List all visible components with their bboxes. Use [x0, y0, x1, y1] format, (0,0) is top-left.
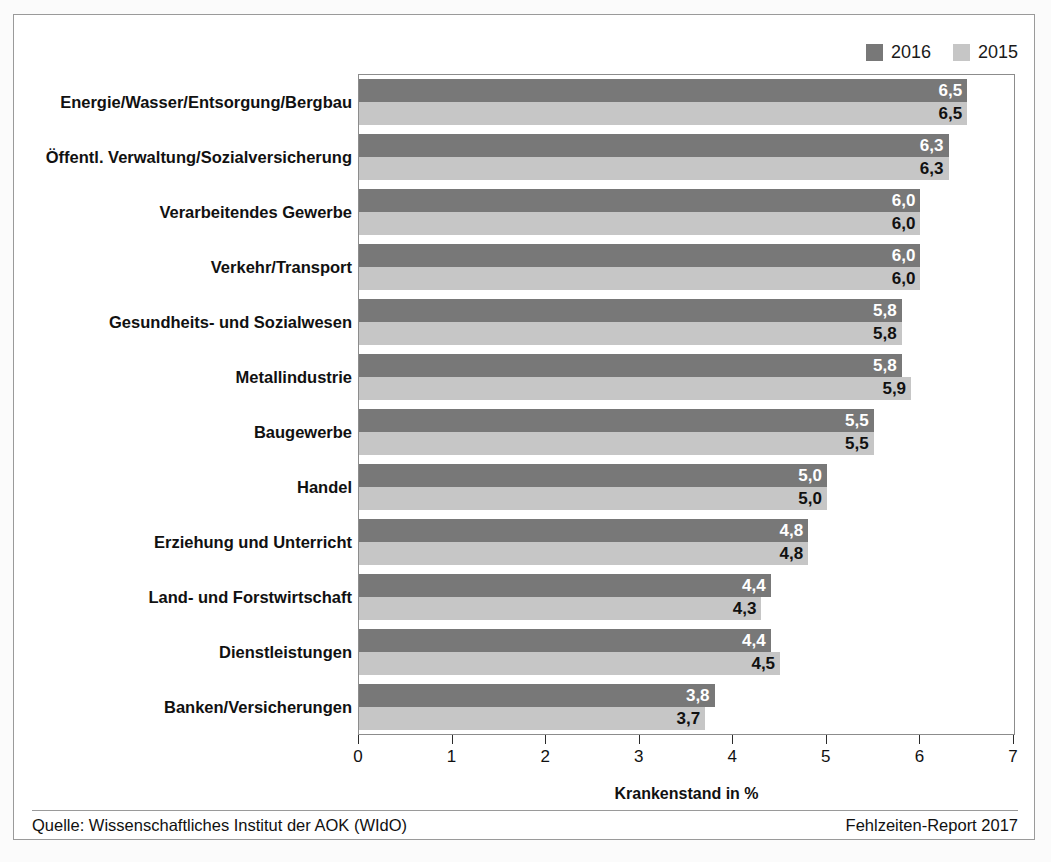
bar-value-label: 5,0 [798, 490, 822, 507]
category-label: Gesundheits- und Sozialwesen [34, 314, 352, 331]
x-axis-tick [452, 735, 453, 744]
report-note: Fehlzeiten-Report 2017 [846, 817, 1018, 834]
x-axis-tick-label: 4 [728, 748, 737, 765]
bar-2016: 5,8 [359, 354, 902, 377]
bar-2015: 6,0 [359, 212, 920, 235]
chart-figure: 20162015 Energie/Wasser/Entsorgung/Bergb… [13, 14, 1035, 840]
bar-2015: 6,0 [359, 267, 920, 290]
bar-value-label: 5,8 [873, 302, 897, 319]
bar-2015: 4,8 [359, 542, 808, 565]
legend-label: 2016 [891, 43, 931, 61]
legend-label: 2015 [978, 43, 1018, 61]
category-label: Land- und Forstwirtschaft [34, 589, 352, 606]
bar-value-label: 3,8 [686, 687, 710, 704]
bar-value-label: 4,4 [742, 632, 766, 649]
legend-swatch-2016 [866, 44, 883, 61]
footer-divider [32, 810, 1018, 811]
x-axis-tick [732, 735, 733, 744]
legend-item-2015: 2015 [953, 43, 1018, 61]
bar-group: 5,05,0 [359, 464, 1014, 510]
bar-2015: 3,7 [359, 707, 705, 730]
category-label: Energie/Wasser/Entsorgung/Bergbau [34, 94, 352, 111]
bar-value-label: 5,9 [882, 380, 906, 397]
bar-value-label: 4,8 [780, 522, 804, 539]
x-axis-tick-label: 5 [821, 748, 830, 765]
bar-2016: 3,8 [359, 684, 715, 707]
category-label: Baugewerbe [34, 424, 352, 441]
bar-group: 6,36,3 [359, 134, 1014, 180]
bar-2016: 6,3 [359, 134, 949, 157]
bar-2015: 5,0 [359, 487, 827, 510]
x-axis-tick [358, 735, 359, 744]
bar-value-label: 6,5 [939, 82, 963, 99]
category-label: Handel [34, 479, 352, 496]
bar-group: 6,06,0 [359, 189, 1014, 235]
bar-2016: 6,0 [359, 189, 920, 212]
category-label: Verarbeitendes Gewerbe [34, 204, 352, 221]
bar-value-label: 4,8 [780, 545, 804, 562]
chart-footer: Quelle: Wissenschaftliches Institut der … [32, 817, 1018, 834]
bars-layer: 6,56,56,36,36,06,06,06,05,85,85,85,95,55… [359, 75, 1014, 734]
bar-2015: 5,9 [359, 377, 911, 400]
chart-legend: 20162015 [866, 41, 1018, 63]
category-label: Metallindustrie [34, 369, 352, 386]
x-axis-tick-label: 3 [634, 748, 643, 765]
bar-value-label: 5,8 [873, 357, 897, 374]
bar-value-label: 6,3 [920, 137, 944, 154]
bar-value-label: 4,5 [751, 655, 775, 672]
bar-value-label: 6,0 [892, 215, 916, 232]
bar-2015: 4,3 [359, 597, 761, 620]
category-label: Erziehung und Unterricht [34, 534, 352, 551]
bar-group: 5,85,9 [359, 354, 1014, 400]
bar-2016: 4,4 [359, 574, 771, 597]
x-axis-tick-label: 1 [447, 748, 456, 765]
bar-value-label: 5,8 [873, 325, 897, 342]
bar-group: 4,44,5 [359, 629, 1014, 675]
bar-group: 5,85,8 [359, 299, 1014, 345]
bar-2015: 5,5 [359, 432, 874, 455]
bar-2015: 6,5 [359, 102, 967, 125]
bar-value-label: 5,5 [845, 412, 869, 429]
bar-2015: 6,3 [359, 157, 949, 180]
bar-value-label: 4,4 [742, 577, 766, 594]
x-axis-tick-label: 0 [353, 748, 362, 765]
bar-2016: 5,5 [359, 409, 874, 432]
legend-swatch-2015 [953, 44, 970, 61]
x-axis-tick [1013, 735, 1014, 744]
bar-2016: 6,5 [359, 79, 967, 102]
bar-2016: 4,4 [359, 629, 771, 652]
bar-2016: 6,0 [359, 244, 920, 267]
bar-2016: 5,8 [359, 299, 902, 322]
category-label: Banken/Versicherungen [34, 699, 352, 716]
bar-2016: 4,8 [359, 519, 808, 542]
bar-group: 4,44,3 [359, 574, 1014, 620]
bar-value-label: 6,3 [920, 160, 944, 177]
bar-2015: 5,8 [359, 322, 902, 345]
bar-value-label: 6,0 [892, 270, 916, 287]
bar-group: 5,55,5 [359, 409, 1014, 455]
bar-group: 3,83,7 [359, 684, 1014, 730]
category-label: Öffentl. Verwaltung/Sozialversicherung [34, 149, 352, 166]
bar-value-label: 3,7 [677, 710, 701, 727]
bar-value-label: 4,3 [733, 600, 757, 617]
x-axis-tick-label: 7 [1008, 748, 1017, 765]
bar-group: 6,56,5 [359, 79, 1014, 125]
x-axis-tick-label: 6 [915, 748, 924, 765]
source-note: Quelle: Wissenschaftliches Institut der … [32, 817, 407, 834]
category-label: Verkehr/Transport [34, 259, 352, 276]
x-axis-tick [826, 735, 827, 744]
bar-2015: 4,5 [359, 652, 780, 675]
legend-item-2016: 2016 [866, 43, 931, 61]
bar-value-label: 6,0 [892, 192, 916, 209]
category-label: Dienstleistungen [34, 644, 352, 661]
bar-value-label: 5,0 [798, 467, 822, 484]
bar-value-label: 6,0 [892, 247, 916, 264]
category-axis-labels: Energie/Wasser/Entsorgung/BergbauÖffentl… [34, 75, 352, 734]
bar-group: 4,84,8 [359, 519, 1014, 565]
bar-group: 6,06,0 [359, 244, 1014, 290]
bar-value-label: 6,5 [939, 105, 963, 122]
x-axis-title: Krankenstand in % [358, 785, 1015, 803]
x-axis-tick [545, 735, 546, 744]
x-axis-tick [919, 735, 920, 744]
x-axis: 01234567 [358, 735, 1015, 736]
